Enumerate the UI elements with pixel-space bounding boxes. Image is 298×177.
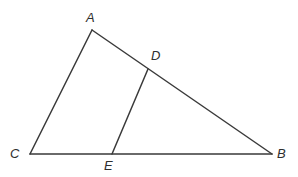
segment-DE	[112, 69, 148, 154]
vertex-label-b: B	[277, 147, 286, 160]
vertex-label-e: E	[104, 159, 113, 172]
vertex-label-d: D	[151, 49, 160, 62]
vertex-label-c: C	[10, 147, 19, 160]
segment-CA	[30, 30, 92, 154]
triangle-diagram-svg	[0, 0, 298, 177]
segment-AB	[92, 30, 272, 154]
vertex-label-a: A	[86, 11, 95, 24]
geometry-figure: A D C E B	[0, 0, 298, 177]
